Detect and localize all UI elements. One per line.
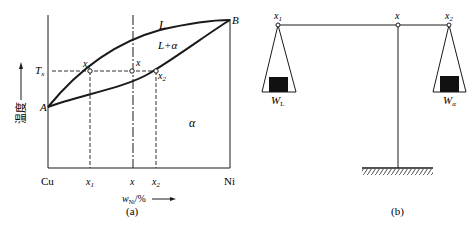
region-solid-label: α (189, 116, 196, 130)
element-cu-label: Cu (41, 175, 54, 187)
lever-balance-panel: x1 x x2 WL Wα (b) (262, 10, 466, 218)
right-weight-block (440, 76, 459, 92)
element-ni-label: Ni (224, 175, 235, 187)
temperature-tx-label: Tx (35, 64, 45, 78)
y-axis-arrow-icon (19, 62, 23, 100)
left-pan (262, 25, 296, 92)
left-weight-label: WL (271, 94, 284, 108)
point-x1-label: x1 (82, 58, 91, 71)
tick-x-label: x (129, 176, 135, 187)
y-axis-label: 温度 (14, 102, 28, 124)
right-point-label: x2 (444, 10, 453, 23)
x-axis-arrow-icon (152, 197, 176, 201)
pivot-point-label: x (394, 10, 400, 21)
region-liquid-label: L (158, 18, 166, 32)
x-axis-label: wNi/% (122, 193, 146, 205)
right-pan (433, 25, 466, 92)
left-pivot-marker (276, 23, 280, 27)
lever-rule-diagram: A B Tx L L+α α x1 x x2 Cu Ni x1 x x2 wNi… (0, 0, 475, 232)
center-pivot-marker (396, 23, 400, 27)
caption-b: (b) (391, 205, 404, 218)
ground-hatch (362, 169, 433, 175)
tick-x2-label: x2 (151, 176, 160, 189)
point-x2-label: x2 (157, 70, 166, 83)
point-a-label: A (39, 101, 47, 113)
region-two-phase-label: L+α (157, 39, 178, 51)
point-x-marker (130, 69, 134, 73)
left-weight-block (269, 77, 288, 92)
point-x-label: x (135, 57, 141, 68)
tick-x1-label: x1 (85, 176, 94, 189)
phase-diagram-panel: A B Tx L L+α α x1 x x2 Cu Ni x1 x x2 wNi… (14, 14, 239, 218)
point-b-label: B (232, 14, 239, 26)
right-pivot-marker (447, 23, 451, 27)
left-point-label: x1 (273, 10, 282, 23)
right-weight-label: Wα (443, 94, 456, 108)
caption-a: (a) (126, 205, 139, 218)
